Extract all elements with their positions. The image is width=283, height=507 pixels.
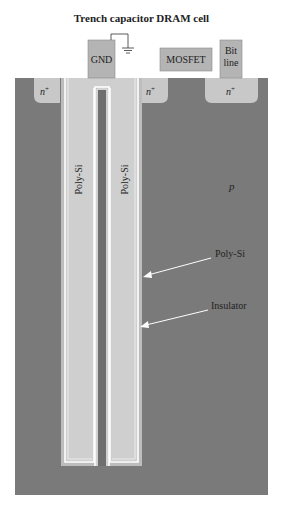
n-plus-mid-label: n+ bbox=[146, 85, 155, 97]
p-substrate-label: p bbox=[229, 180, 235, 192]
poly-si-right-label: Poly-Si bbox=[119, 160, 130, 200]
bit-line-label-2: line bbox=[220, 57, 242, 68]
insulator-callout-label: Insulator bbox=[211, 300, 247, 311]
mosfet-label: MOSFET bbox=[160, 54, 212, 65]
trench-capacitor bbox=[61, 78, 142, 466]
n-plus-right-label: n+ bbox=[226, 85, 235, 97]
n-plus-left-label: n+ bbox=[40, 85, 49, 97]
bit-line-label-1: Bit bbox=[220, 45, 242, 56]
polysi-callout-label: Poly-Si bbox=[215, 248, 245, 259]
poly-si-left-label: Poly-Si bbox=[73, 160, 84, 200]
gnd-label: GND bbox=[88, 54, 115, 65]
